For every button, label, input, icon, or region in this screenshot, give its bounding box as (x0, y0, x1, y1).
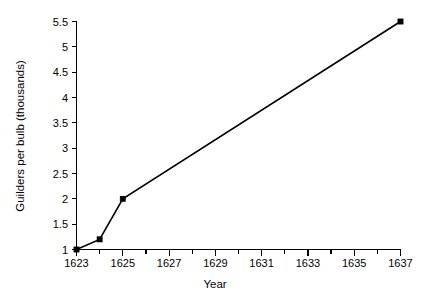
y-tick-label: 1 (62, 244, 68, 256)
x-tick-label: 1633 (296, 257, 320, 269)
x-tick-label: 1627 (157, 257, 181, 269)
y-tick-label: 3 (62, 142, 68, 154)
y-tick-label: 5.5 (53, 16, 68, 28)
data-point-marker (120, 196, 125, 201)
y-tick-label: 2 (62, 193, 68, 205)
data-point-marker (97, 237, 102, 242)
chart-container: 1 1.5 2 2.5 3 3.5 (0, 0, 429, 300)
x-tick-label: 1637 (388, 257, 412, 269)
y-tick-label: 4 (62, 92, 68, 104)
y-tick-label: 2.5 (53, 168, 68, 180)
x-tick-label: 1625 (111, 257, 135, 269)
x-tick-label: 1631 (249, 257, 273, 269)
y-tick-label: 3.5 (53, 117, 68, 129)
y-tick-label: 1.5 (53, 218, 68, 230)
x-tick-label: 1635 (342, 257, 366, 269)
x-tick-label: 1629 (203, 257, 227, 269)
x-axis-title: Year (203, 278, 226, 290)
y-axis-title: Guilders per bulb (thousands) (14, 60, 26, 212)
line-chart: 1 1.5 2 2.5 3 3.5 (0, 0, 429, 300)
data-point-marker (398, 19, 403, 24)
data-point-marker (74, 247, 79, 252)
x-tick-label: 1623 (64, 257, 88, 269)
y-tick-label: 5 (62, 41, 68, 53)
y-tick-label: 4.5 (53, 66, 68, 78)
